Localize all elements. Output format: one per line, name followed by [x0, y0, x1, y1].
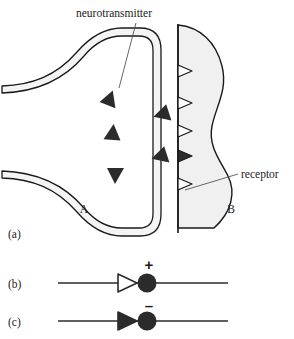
panel-label-c: (c) [8, 316, 21, 329]
synapse-triangle-open [118, 274, 137, 292]
neurotransmitter-triangle [99, 88, 120, 108]
postsynaptic-cell-label: B [227, 203, 235, 215]
figure-root: neurotransmitter receptor A B (a) + (b) … [0, 0, 294, 339]
neurotransmitter-triangle [104, 123, 122, 140]
panel-c-group: – (c) [8, 297, 228, 331]
neurotransmitter-triangle [107, 168, 124, 184]
synaptic-bouton-filled [138, 274, 157, 293]
panel-a-group: neurotransmitter receptor A B (a) [2, 7, 279, 241]
synapse-figure-svg: neurotransmitter receptor A B (a) + (b) … [0, 0, 294, 339]
panel-label-b: (b) [8, 278, 22, 291]
synapse-triangle-filled [118, 312, 137, 330]
synaptic-bouton-filled [138, 312, 157, 331]
inhibitory-sign: – [145, 297, 153, 314]
panel-b-group: + (b) [8, 256, 228, 293]
presynaptic-cell-label: A [80, 203, 89, 215]
panel-label-a: (a) [8, 228, 21, 241]
neurotransmitter-label: neurotransmitter [76, 7, 152, 19]
postsynaptic-cell-b-body [178, 25, 232, 228]
excitatory-sign: + [145, 256, 154, 273]
receptor-label: receptor [241, 168, 279, 181]
neurotransmitter-inside-terminal-group [99, 88, 124, 184]
